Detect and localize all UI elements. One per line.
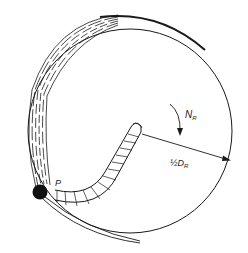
ball-p xyxy=(33,185,48,200)
point-p-label: P xyxy=(55,178,61,188)
rotation-label: NR xyxy=(185,109,197,121)
radius-label: ½DR xyxy=(170,158,189,169)
rotation-arrow-icon xyxy=(170,104,183,136)
impeller-diagram: NR ½DR P xyxy=(0,0,248,253)
feed-tube xyxy=(55,123,142,206)
discharge-curves xyxy=(42,197,140,243)
spiral-layers xyxy=(29,15,118,188)
radius-arrow xyxy=(142,134,231,161)
rim-thick xyxy=(100,16,205,50)
